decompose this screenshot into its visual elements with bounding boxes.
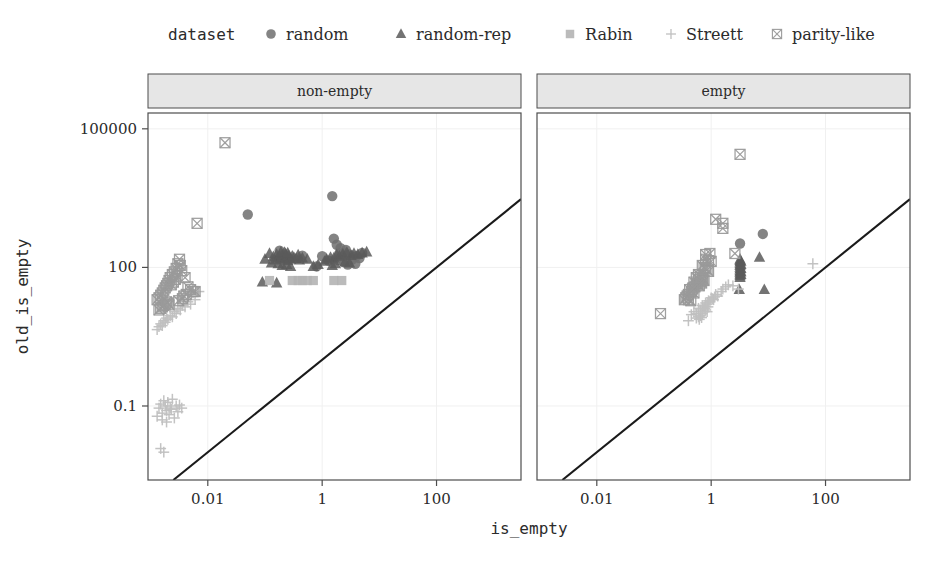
point-circle <box>758 229 768 239</box>
x-axis-0: 0.011100 <box>191 480 451 508</box>
y-axis-title: old_is_empty <box>13 238 32 354</box>
point-triangle <box>396 28 406 38</box>
legend-title: dataset <box>168 25 235 44</box>
y-axis: 0.1100100000 <box>80 120 148 415</box>
legend-item-rabin[interactable]: Rabin <box>566 25 633 44</box>
legend-item-random-rep[interactable]: random-rep <box>396 25 512 44</box>
x-tick-label: 100 <box>811 490 840 508</box>
legend-label: parity-like <box>792 25 875 44</box>
y-tick-label: 100000 <box>80 120 137 138</box>
legend-item-parity-like[interactable]: parity-like <box>772 25 874 44</box>
x-tick-label: 100 <box>422 490 451 508</box>
legend-label: random-rep <box>416 25 511 44</box>
facet-panel-non-empty: non-empty0.011100 <box>148 74 521 508</box>
point-square <box>265 276 274 285</box>
point-square-x <box>772 29 781 38</box>
legend-item-random[interactable]: random <box>266 25 348 44</box>
y-tick-label: 100 <box>108 258 137 276</box>
chart-legend: datasetrandomrandom-repRabinStreettparit… <box>168 25 875 44</box>
x-tick-label: 1 <box>317 490 327 508</box>
y-tick-label: 0.1 <box>113 397 137 415</box>
panel-background <box>148 113 521 480</box>
legend-item-streett[interactable]: Streett <box>666 25 743 44</box>
scatter-plot-svg: datasetrandomrandom-repRabinStreettparit… <box>0 0 945 577</box>
point-circle <box>243 209 253 219</box>
legend-label: random <box>286 25 349 44</box>
chart-figure: datasetrandomrandom-repRabinStreettparit… <box>0 0 945 577</box>
panel-background <box>537 113 910 480</box>
point-plus <box>666 29 676 39</box>
legend-label: Rabin <box>585 25 633 44</box>
x-axis-1: 0.011100 <box>580 480 840 508</box>
point-square <box>309 276 318 285</box>
facet-panel-empty: empty0.011100 <box>537 74 910 508</box>
point-square <box>329 276 338 285</box>
point-circle <box>735 238 745 248</box>
legend-label: Streett <box>686 25 743 44</box>
x-axis-title: is_empty <box>490 519 567 538</box>
x-tick-label: 1 <box>706 490 716 508</box>
facet-strip-label: empty <box>701 83 745 99</box>
facet-strip-label: non-empty <box>297 83 372 99</box>
x-tick-label: 0.01 <box>191 490 224 508</box>
point-circle <box>327 191 337 201</box>
point-square <box>337 276 346 285</box>
point-circle <box>266 29 276 39</box>
x-tick-label: 0.01 <box>580 490 613 508</box>
point-square <box>566 30 574 38</box>
